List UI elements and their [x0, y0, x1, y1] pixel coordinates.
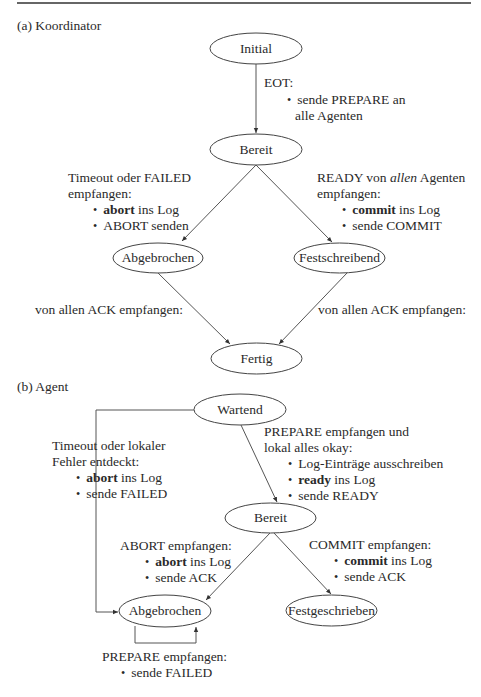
- state-initial: Initial: [210, 33, 302, 64]
- label-prepare-ok-action2: ready ins Log: [288, 472, 375, 488]
- label-timeout-a-line1: Timeout oder FAILED: [68, 170, 191, 186]
- label-ready-line1: READY von allen Agenten: [317, 170, 465, 186]
- label-prepare-ok-line1: PREPARE empfangen und: [264, 424, 409, 440]
- label-timeout-a-action2: ABORT senden: [93, 218, 189, 234]
- edge-abgebrochen-selfloop: [135, 626, 196, 643]
- section-label-koordinator: (a) Koordinator: [17, 18, 101, 34]
- label-commit-action2: sende ACK: [334, 569, 406, 585]
- label-timeout-b-line2: Fehler entdeckt:: [52, 454, 139, 470]
- label-ready-line2: empfangen:: [317, 186, 381, 202]
- label-eot-condition: EOT:: [264, 75, 293, 91]
- label-prepare-loop-action: sende FAILED: [121, 665, 212, 681]
- state-fertig: Fertig: [211, 343, 302, 374]
- state-wartend: Wartend: [194, 394, 286, 425]
- label-abort-b-action2: sende ACK: [145, 570, 217, 586]
- state-abgebrochen-agent: Abgebrochen: [119, 595, 211, 627]
- label-prepare-loop-condition: PREPARE empfangen:: [102, 649, 227, 665]
- label-prepare-ok-action1: Log-Einträge ausschreiben: [288, 456, 443, 472]
- label-commit-action1: commit ins Log: [334, 553, 432, 569]
- state-festgeschrieben: Festgeschrieben: [286, 595, 377, 626]
- label-abort-b-action1: abort ins Log: [145, 554, 231, 570]
- label-commit-condition: COMMIT empfangen:: [309, 537, 431, 553]
- edge-bereit-abgebrochen: [182, 165, 256, 241]
- state-abgebrochen: Abgebrochen: [113, 243, 203, 273]
- state-festschreibend: Festschreibend: [294, 243, 385, 273]
- label-timeout-a-action1: abort ins Log: [93, 202, 179, 218]
- state-bereit-agent: Bereit: [225, 503, 316, 533]
- label-ack-left: von allen ACK empfangen:: [35, 302, 183, 318]
- label-ready-action1: commit ins Log: [342, 202, 440, 218]
- label-timeout-a-line2: empfangen:: [68, 186, 132, 202]
- label-timeout-b-line1: Timeout oder lokaler: [52, 438, 165, 454]
- label-ack-right: von allen ACK empfangen:: [318, 302, 466, 318]
- label-prepare-ok-action3: sende READY: [288, 488, 379, 504]
- label-abort-b-condition: ABORT empfangen:: [120, 538, 232, 554]
- label-timeout-b-action2: sende FAILED: [76, 486, 167, 502]
- label-timeout-b-action1: abort ins Log: [76, 470, 162, 486]
- state-bereit: Bereit: [210, 134, 302, 165]
- section-label-agent: (b) Agent: [17, 379, 68, 395]
- label-ready-action2: sende COMMIT: [342, 218, 442, 234]
- label-eot-action1: sende PREPARE an: [287, 92, 405, 108]
- label-eot-action2: alle Agenten: [295, 108, 363, 124]
- label-prepare-ok-line2: lokal alles okay:: [264, 440, 352, 456]
